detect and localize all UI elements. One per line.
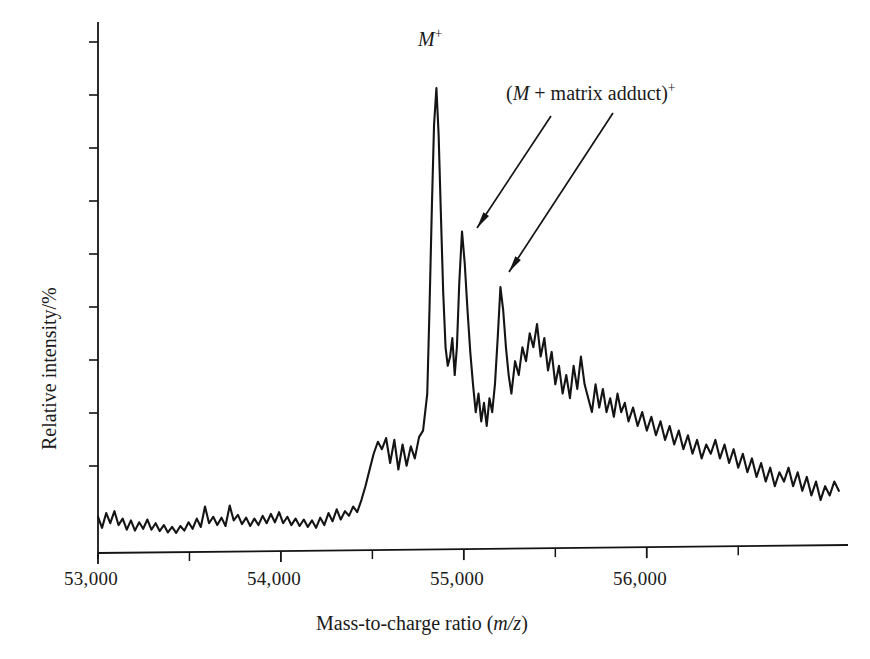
x-axis-line bbox=[98, 545, 848, 553]
spectrum-line bbox=[98, 88, 839, 533]
matrix-adduct-label-open: ( bbox=[506, 82, 513, 104]
x-axis-title-plain: Mass-to-charge ratio ( bbox=[316, 612, 493, 634]
arrow-to-adduct-peak-1-head bbox=[477, 212, 489, 228]
spectrum-trace bbox=[98, 88, 839, 533]
molecular-ion-label-charge: + bbox=[435, 26, 443, 41]
x-tick-label-54000: 54,000 bbox=[247, 568, 301, 590]
x-tick-label-53000: 53,000 bbox=[64, 568, 118, 590]
axis-group bbox=[89, 22, 848, 564]
annotation-arrows bbox=[477, 113, 613, 272]
spectrum-plot-canvas bbox=[0, 0, 870, 659]
x-tick-label-56000: 56,000 bbox=[613, 568, 667, 590]
x-axis-title-close: ) bbox=[521, 612, 528, 634]
arrow-to-adduct-peak-2-head bbox=[509, 256, 521, 272]
molecular-ion-label: M+ bbox=[418, 26, 442, 51]
matrix-adduct-label-charge: + bbox=[668, 80, 676, 95]
x-axis-title-italic: m/z bbox=[493, 612, 521, 634]
x-axis-title: Mass-to-charge ratio (m/z) bbox=[316, 612, 528, 635]
matrix-adduct-label-mid: + matrix adduct) bbox=[529, 82, 667, 104]
molecular-ion-label-symbol: M bbox=[418, 28, 435, 50]
arrow-to-adduct-peak-1-shaft bbox=[477, 116, 551, 228]
x-tick-label-55000: 55,000 bbox=[430, 568, 484, 590]
matrix-adduct-label: (M + matrix adduct)+ bbox=[506, 80, 675, 105]
arrow-to-adduct-peak-2-shaft bbox=[509, 113, 613, 272]
y-axis-title: Relative intensity/% bbox=[38, 287, 61, 450]
matrix-adduct-label-symbol: M bbox=[513, 82, 530, 104]
mass-spectrum-figure: Relative intensity/% Mass-to-charge rati… bbox=[0, 0, 870, 659]
